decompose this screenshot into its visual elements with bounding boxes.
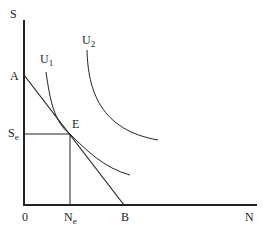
point-a-label: A [10,70,19,82]
se-label: Se [8,127,19,142]
point-e-label: E [72,118,79,130]
origin-label: 0 [22,211,28,223]
se-label-sub: e [15,132,19,142]
y-axis-label: S [10,8,17,20]
ne-label: Ne [64,211,77,226]
u2-label-main: U [82,33,91,47]
u2-label: U2 [82,34,95,49]
budget-line-AB [24,75,124,205]
point-b-label: B [121,211,129,223]
ne-label-main: N [64,210,73,224]
x-axis-label: N [245,211,254,223]
ne-label-sub: e [73,216,77,226]
u1-label-sub: 1 [49,58,54,68]
indifference-curve-u2 [87,50,158,140]
indifference-curve-diagram [0,0,263,228]
se-label-main: S [8,126,15,140]
u1-label: U1 [40,53,53,68]
u1-label-main: U [40,52,49,66]
u2-label-sub: 2 [91,39,96,49]
